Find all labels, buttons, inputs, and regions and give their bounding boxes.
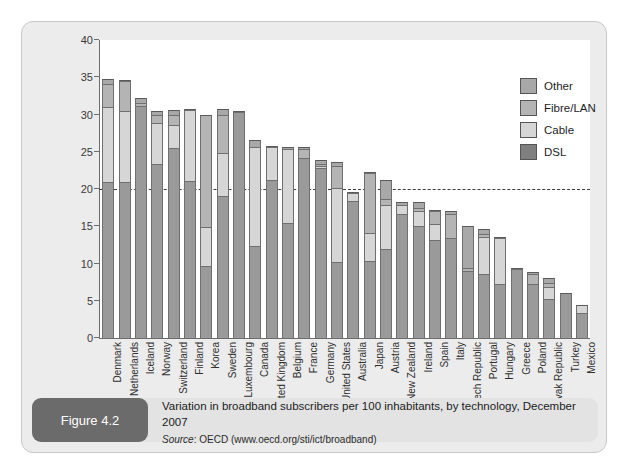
legend-swatch-icon bbox=[520, 122, 537, 138]
bar-segment-dsl bbox=[102, 182, 114, 338]
bar-segment-cable bbox=[543, 287, 555, 300]
legend-item-other[interactable]: Other bbox=[520, 76, 629, 96]
bar-segment-cable bbox=[331, 188, 343, 262]
x-axis-label-text: Italy bbox=[455, 342, 466, 360]
bar-segment-dsl bbox=[429, 240, 441, 338]
y-axis-tick-label: 30 bbox=[81, 109, 99, 121]
bar-segment-dsl bbox=[413, 226, 425, 338]
bar-column bbox=[478, 229, 490, 338]
bar-segment-cable bbox=[347, 193, 359, 201]
x-axis-label-text: Netherlands bbox=[129, 342, 140, 396]
bar-segment-cable bbox=[102, 107, 114, 182]
bar-segment-dsl bbox=[527, 284, 539, 338]
chart-legend: OtherFibre/LANCableDSL bbox=[520, 76, 629, 164]
bar-segment-cable bbox=[119, 111, 131, 183]
x-axis-label-text: Turkey bbox=[570, 342, 581, 372]
bar-segment-dsl bbox=[462, 271, 474, 338]
y-axis-tick-label: 20 bbox=[81, 183, 99, 195]
bar-segment-cable bbox=[429, 224, 441, 240]
x-axis-label-text: Australia bbox=[357, 342, 368, 381]
legend-swatch-icon bbox=[520, 100, 537, 116]
legend-item-dsl[interactable]: DSL bbox=[520, 142, 629, 162]
y-axis-tick-label: 15 bbox=[81, 220, 99, 232]
figure-panel: 0510152025303540 DenmarkNetherlandsIcela… bbox=[21, 21, 607, 453]
bar-column bbox=[560, 293, 572, 338]
bar-column bbox=[184, 109, 196, 338]
bar-column bbox=[364, 172, 376, 338]
bar-segment-dsl bbox=[282, 223, 294, 338]
source-label: Source bbox=[162, 434, 194, 445]
bar-column bbox=[331, 162, 343, 338]
x-axis-label-text: Japan bbox=[374, 342, 385, 369]
chart-plot-region: 0510152025303540 DenmarkNetherlandsIcela… bbox=[58, 32, 594, 412]
y-axis-tick: 40 bbox=[58, 34, 99, 46]
x-axis-label-text: Germany bbox=[325, 342, 336, 383]
bar-segment-cable bbox=[576, 305, 588, 312]
figure-source-line: Source: OECD (www.oecd.org/sti/ict/broad… bbox=[162, 433, 598, 447]
bar-segment-fibre-lan bbox=[168, 115, 180, 125]
bar-column bbox=[462, 226, 474, 338]
y-axis-tick-label: 10 bbox=[81, 258, 99, 270]
bar-column bbox=[511, 268, 523, 338]
y-axis-tick-label: 0 bbox=[87, 332, 99, 344]
bar-segment-dsl bbox=[168, 148, 180, 338]
bar-segment-fibre-lan bbox=[217, 115, 229, 153]
bar-segment-dsl bbox=[315, 168, 327, 338]
x-axis-label-text: Austria bbox=[390, 342, 401, 373]
x-axis-label-text: Iceland bbox=[145, 342, 156, 374]
bar-column bbox=[413, 202, 425, 338]
bar-segment-fibre-lan bbox=[364, 173, 376, 233]
figure-caption-title: Variation in broadband subscribers per 1… bbox=[162, 399, 598, 430]
bar-segment-dsl bbox=[119, 182, 131, 338]
y-axis-tick-mark bbox=[94, 151, 99, 152]
bar-column bbox=[445, 211, 457, 338]
bar-segment-dsl bbox=[364, 261, 376, 338]
bar-segment-dsl bbox=[184, 181, 196, 338]
x-axis-label-text: Portugal bbox=[488, 342, 499, 379]
x-axis-label-text: Canada bbox=[259, 342, 270, 377]
bar-segment-dsl bbox=[543, 299, 555, 338]
bar-segment-dsl bbox=[298, 158, 310, 338]
bar-column bbox=[249, 140, 261, 338]
bar-segment-dsl bbox=[266, 180, 278, 338]
bar-segment-fibre-lan bbox=[151, 115, 163, 124]
y-axis-tick-mark bbox=[94, 114, 99, 115]
bar-segment-fibre-lan bbox=[102, 84, 114, 107]
bar-column bbox=[102, 79, 114, 338]
x-axis-line bbox=[99, 338, 590, 339]
bar-segment-cable bbox=[217, 153, 229, 197]
x-axis-label-text: Belgium bbox=[292, 342, 303, 378]
bar-column bbox=[429, 210, 441, 338]
legend-swatch-icon bbox=[520, 78, 537, 94]
y-axis-tick-label: 25 bbox=[81, 146, 99, 158]
bar-column bbox=[298, 147, 310, 338]
bar-segment-cable bbox=[200, 227, 212, 266]
bar-segment-dsl bbox=[217, 196, 229, 338]
caption-text-block: Variation in broadband subscribers per 1… bbox=[148, 398, 598, 442]
x-axis-label-text: Hungary bbox=[504, 342, 515, 380]
bar-segment-fibre-lan bbox=[445, 214, 457, 239]
bar-segment-dsl bbox=[380, 249, 392, 338]
figure-number-badge: Figure 4.2 bbox=[32, 398, 148, 442]
bar-segment-cable bbox=[364, 233, 376, 261]
x-axis-label-text: Greece bbox=[521, 342, 532, 375]
legend-label: Other bbox=[544, 80, 573, 92]
legend-item-cable[interactable]: Cable bbox=[520, 120, 629, 140]
bar-segment-dsl bbox=[331, 262, 343, 338]
bar-segment-dsl bbox=[511, 269, 523, 338]
legend-item-fibre-lan[interactable]: Fibre/LAN bbox=[520, 98, 629, 118]
x-axis-label-text: Mexico bbox=[586, 342, 597, 374]
bar-segment-cable bbox=[478, 237, 490, 274]
y-axis-tick-mark bbox=[94, 263, 99, 264]
y-axis-tick-mark bbox=[94, 337, 99, 338]
x-axis-label-text: Denmark bbox=[112, 342, 123, 383]
bar-column bbox=[282, 147, 294, 338]
bar-segment-cable bbox=[380, 205, 392, 249]
bar-segment-dsl bbox=[560, 293, 572, 338]
bar-segment-fibre-lan bbox=[298, 149, 310, 158]
y-axis-tick-label: 5 bbox=[87, 295, 99, 307]
bar-column bbox=[168, 110, 180, 338]
x-axis-label-text: France bbox=[308, 342, 319, 373]
bar-column bbox=[396, 202, 408, 338]
bar-column bbox=[543, 278, 555, 338]
